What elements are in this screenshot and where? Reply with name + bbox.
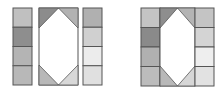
right-column-cell: [83, 66, 102, 85]
right-column-cell: [83, 27, 102, 46]
left-column-cell: [13, 8, 32, 27]
figure-1: [13, 8, 102, 85]
left-column-cell: [141, 67, 160, 87]
figure-2: [141, 8, 214, 86]
right-column-cell: [195, 8, 214, 28]
left-column-cell: [141, 8, 160, 28]
right-column-cell: [83, 8, 102, 27]
left-column-cell: [13, 47, 32, 66]
left-column-cell: [13, 27, 32, 46]
right-column-cell: [195, 28, 214, 48]
diagram-canvas: [0, 0, 220, 93]
right-column-cell: [195, 47, 214, 67]
left-column-cell: [13, 66, 32, 85]
left-column-cell: [141, 47, 160, 67]
right-column-cell: [195, 67, 214, 87]
right-column-cell: [83, 47, 102, 66]
left-column-cell: [141, 28, 160, 48]
